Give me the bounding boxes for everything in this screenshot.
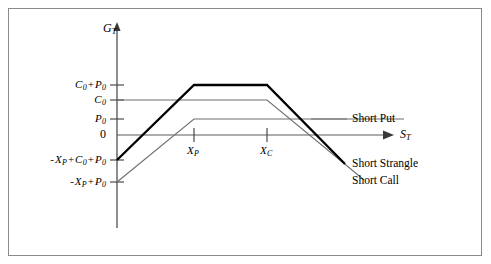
y-label-p0: P0: [10, 113, 106, 126]
curve-label-short-strangle: Short Strangle: [352, 158, 418, 170]
y-label-c0: C0: [10, 94, 106, 107]
x-label-xp: XP: [187, 145, 199, 158]
y-label-zero: 0: [10, 128, 106, 140]
curve-short-strangle: [117, 85, 345, 164]
y-label-c0-plus-p0: C0+P0: [10, 79, 106, 92]
axis-group: [113, 22, 394, 228]
curve-label-short-put: Short Put: [352, 113, 395, 125]
y-label-neg-xp-plus-p0: -XP+P0: [10, 176, 106, 189]
x-axis-arrowhead: [383, 131, 394, 140]
y-label-neg-xp-plus-c0-plus-p0: -XP+C0+P0: [10, 154, 106, 167]
curve-label-short-call: Short Call: [352, 175, 399, 187]
payoff-figure: GT ST C0+P0 C0 P0 0 -XP+C0+P0 -XP+P0 XP …: [0, 0, 491, 264]
curve-short-call: [117, 100, 364, 180]
y-axis-label: GT: [103, 22, 116, 35]
x-axis-label: ST: [400, 128, 411, 141]
x-label-xc: XC: [260, 145, 272, 158]
